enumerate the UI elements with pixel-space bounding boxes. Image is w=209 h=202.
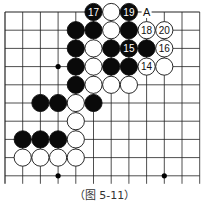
white-stone bbox=[67, 131, 84, 148]
black-stone bbox=[32, 94, 49, 111]
move-number: 20 bbox=[159, 25, 171, 36]
white-stone bbox=[67, 149, 84, 166]
black-stone bbox=[85, 94, 102, 111]
move-number: 19 bbox=[123, 7, 135, 18]
figure-caption: （图 5-11） bbox=[0, 186, 209, 202]
move-number: 17 bbox=[88, 7, 100, 18]
move-number: 15 bbox=[123, 43, 135, 54]
move-number: 14 bbox=[141, 61, 153, 72]
black-stone bbox=[138, 40, 155, 57]
white-stone bbox=[103, 22, 120, 39]
white-stone bbox=[67, 113, 84, 130]
black-stone bbox=[67, 76, 84, 93]
white-stone bbox=[32, 149, 49, 166]
white-stone bbox=[14, 149, 31, 166]
move-number: 16 bbox=[159, 43, 171, 54]
black-stone bbox=[50, 131, 67, 148]
point-label: A bbox=[143, 6, 151, 18]
white-stone bbox=[103, 76, 120, 93]
white-stone bbox=[85, 40, 102, 57]
white-stone bbox=[50, 149, 67, 166]
white-stone bbox=[156, 58, 173, 75]
black-stone bbox=[85, 22, 102, 39]
black-stone bbox=[14, 131, 31, 148]
star-point bbox=[56, 64, 61, 69]
black-stone bbox=[67, 58, 84, 75]
black-stone bbox=[67, 40, 84, 57]
move-number: 18 bbox=[141, 25, 153, 36]
white-stone bbox=[67, 94, 84, 111]
go-board-diagram: 17191820151614A bbox=[0, 0, 209, 190]
white-stone bbox=[120, 76, 137, 93]
black-stone bbox=[103, 40, 120, 57]
white-stone bbox=[103, 3, 120, 20]
black-stone bbox=[67, 22, 84, 39]
black-stone bbox=[120, 22, 137, 39]
star-point bbox=[56, 173, 61, 178]
black-stone bbox=[32, 131, 49, 148]
white-stone bbox=[85, 76, 102, 93]
white-stone bbox=[85, 58, 102, 75]
black-stone bbox=[103, 58, 120, 75]
star-point bbox=[162, 173, 167, 178]
black-stone bbox=[50, 94, 67, 111]
black-stone bbox=[120, 58, 137, 75]
